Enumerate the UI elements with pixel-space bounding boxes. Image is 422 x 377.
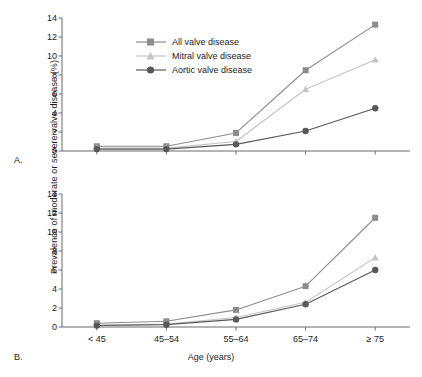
data-point-marker	[372, 22, 378, 28]
y-axis-tick-label: 0	[52, 322, 62, 332]
legend-square-icon	[136, 36, 166, 48]
y-axis-tick-label: 0	[52, 146, 62, 156]
panel-b-plot-area: 02468101214< 4545–5455–6465–74≥ 75	[62, 194, 410, 327]
data-point-marker	[163, 146, 169, 152]
data-point-marker	[303, 283, 309, 289]
y-axis-tick-label: 10	[47, 51, 62, 61]
data-point-marker	[163, 321, 169, 327]
y-axis-tick-label: 2	[52, 303, 62, 313]
data-point-marker	[302, 128, 308, 134]
y-axis-tick-label: 12	[47, 32, 62, 42]
panel-label-a: A.	[14, 155, 23, 165]
y-axis-tick-label: 6	[52, 265, 62, 275]
data-point-marker	[372, 215, 378, 221]
panel-a-plot-area: All valve disease Mitral valve disease A…	[62, 18, 410, 151]
y-axis-tick-label: 14	[47, 189, 62, 199]
x-axis-title: Age (years)	[0, 352, 422, 362]
y-axis-tick-label: 4	[52, 108, 62, 118]
legend-entry-aortic-valve-disease: Aortic valve disease	[136, 63, 252, 77]
data-point-marker	[94, 146, 100, 152]
y-axis-tick-label: 12	[47, 208, 62, 218]
legend: All valve disease Mitral valve disease A…	[136, 35, 252, 77]
data-point-marker	[372, 254, 379, 260]
data-point-marker	[372, 105, 378, 111]
x-axis-tick-label: 45–54	[154, 334, 179, 344]
legend-entry-all-valve-disease: All valve disease	[136, 35, 252, 49]
legend-label-mitral-valve-disease: Mitral valve disease	[172, 51, 251, 61]
legend-circle-icon	[136, 64, 166, 76]
y-axis-tick-label: 4	[52, 284, 62, 294]
x-axis-tick-label: 55–64	[223, 334, 248, 344]
data-point-marker	[303, 67, 309, 73]
data-point-marker	[302, 86, 309, 92]
x-axis-tick-label: < 45	[88, 334, 106, 344]
legend-label-aortic-valve-disease: Aortic valve disease	[172, 65, 252, 75]
data-point-marker	[233, 130, 239, 136]
data-point-marker	[94, 322, 100, 328]
data-point-marker	[372, 267, 378, 273]
x-axis-tick-label: ≥ 75	[366, 334, 383, 344]
y-axis-tick-label: 8	[52, 246, 62, 256]
data-point-marker	[302, 301, 308, 307]
legend-entry-mitral-valve-disease: Mitral valve disease	[136, 49, 252, 63]
data-point-marker	[233, 316, 239, 322]
x-axis-tick-label: 65–74	[293, 334, 318, 344]
y-axis-tick-label: 10	[47, 227, 62, 237]
data-point-marker	[372, 56, 379, 62]
y-axis-tick-label: 8	[52, 70, 62, 80]
data-point-marker	[233, 141, 239, 147]
legend-label-all-valve-disease: All valve disease	[172, 37, 239, 47]
valve-disease-prevalence-figure: Prevalence of moderate or severe valve d…	[0, 0, 422, 377]
legend-triangle-icon	[136, 50, 166, 62]
y-axis-tick-label: 2	[52, 127, 62, 137]
data-point-marker	[233, 307, 239, 313]
panel-b-svg	[62, 194, 410, 327]
y-axis-tick-label: 14	[47, 13, 62, 23]
y-axis-tick-label: 6	[52, 89, 62, 99]
